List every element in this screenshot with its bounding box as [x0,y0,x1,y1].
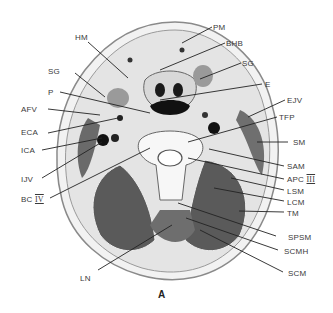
label-sam: SAM [287,162,305,171]
label-lsm: LSM [287,187,304,196]
label-ijv: IJV [21,175,33,184]
neck-cross-section-illustration [0,0,333,313]
figure-caption: A [158,289,165,300]
label-sm: SM [293,138,305,147]
label-hm: HM [75,33,88,42]
label-pm: PM [213,23,225,32]
label-bc-roman: IV [35,195,44,204]
label-scm: SCM [288,269,306,278]
label-spsm: SPSM [288,233,311,242]
label-sg-right: SG [242,59,254,68]
label-bc-text: BC [21,195,33,204]
label-scmh: SCMH [284,247,308,256]
label-apc-iii: APC III [287,175,315,184]
label-ica: ICA [21,146,35,155]
label-eca: ECA [21,128,38,137]
label-bc-iv: BC IV [21,195,44,204]
label-p: P [48,88,54,97]
label-lcm: LCM [287,198,305,207]
label-ejv: EJV [287,96,302,105]
label-afv: AFV [21,105,37,114]
anatomy-figure: HM SG P AFV ECA ICA IJV BC IV LN PM BHB … [0,0,333,313]
label-sg-left: SG [48,67,60,76]
label-bhb: BHB [226,39,243,48]
label-apc-text: APC [287,175,304,184]
label-tfp: TFP [279,113,295,122]
label-ln: LN [80,274,91,283]
label-tm: TM [287,209,299,218]
label-apc-roman: III [307,175,316,184]
label-e: E [265,80,271,89]
